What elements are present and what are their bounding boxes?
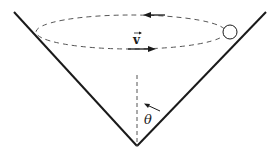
cone-diagram: v θ: [0, 0, 276, 154]
velocity-label-text: v: [132, 33, 141, 47]
cone-right-wall: [137, 12, 266, 146]
orbit-arrow-top-icon: [143, 12, 165, 18]
velocity-label: v: [132, 32, 142, 48]
angle-arrow-icon: [144, 104, 160, 112]
orbit-path: [36, 15, 226, 49]
cone-left-wall: [14, 12, 137, 146]
ball: [223, 25, 237, 39]
angle-label: θ: [144, 112, 152, 127]
